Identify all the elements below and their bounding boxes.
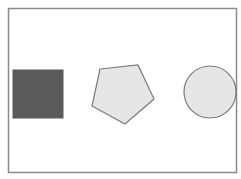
dark-square-shape	[13, 70, 63, 118]
diagram-canvas	[0, 0, 241, 179]
circle-shape	[184, 66, 236, 118]
